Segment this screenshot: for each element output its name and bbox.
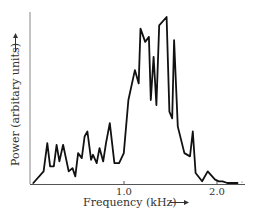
x-tick-label-2: 2.0 [209, 186, 225, 197]
power-spectrum-chart: 1.0 2.0 Frequency (kHz) Power (arbitary … [0, 0, 267, 216]
x-axis-label: Frequency (kHz) [83, 196, 177, 209]
power-spectrum-line [33, 17, 237, 183]
x-axis-end-dot [241, 181, 242, 182]
x-axis-arrow-icon [184, 200, 189, 205]
y-axis-arrow-icon [13, 33, 18, 38]
y-axis-label: Power (arbitary units) [9, 43, 22, 166]
y-axis-label-group: Power (arbitary units) [9, 33, 22, 166]
x-axis-label-group: Frequency (kHz) [83, 196, 189, 209]
